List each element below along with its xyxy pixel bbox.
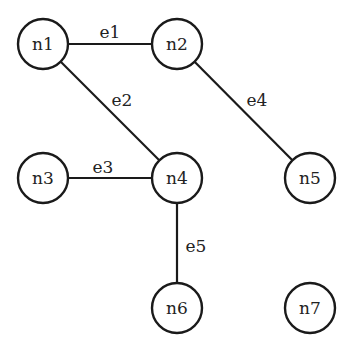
- node-label: n6: [166, 298, 188, 318]
- node-n2: n2: [152, 19, 202, 69]
- node-n3: n3: [18, 153, 68, 203]
- node-label: n3: [32, 168, 54, 188]
- node-n7: n7: [285, 283, 335, 333]
- node-label: n4: [166, 168, 188, 188]
- node-n4: n4: [152, 153, 202, 203]
- node-n5: n5: [285, 153, 335, 203]
- node-n6: n6: [152, 283, 202, 333]
- edge-label-e2: e2: [112, 90, 133, 110]
- node-label: n1: [32, 34, 54, 54]
- node-label: n7: [299, 298, 321, 318]
- edge-e4: [177, 44, 310, 178]
- graph-diagram: e1e2e3e4e5n1n2n3n4n5n6n7: [0, 0, 352, 354]
- edge-label-e4: e4: [247, 90, 268, 110]
- edge-label-e5: e5: [186, 236, 207, 256]
- edge-label-e3: e3: [93, 157, 114, 177]
- node-label: n5: [299, 168, 321, 188]
- edge-label-e1: e1: [100, 22, 121, 42]
- node-label: n2: [166, 34, 188, 54]
- node-n1: n1: [18, 19, 68, 69]
